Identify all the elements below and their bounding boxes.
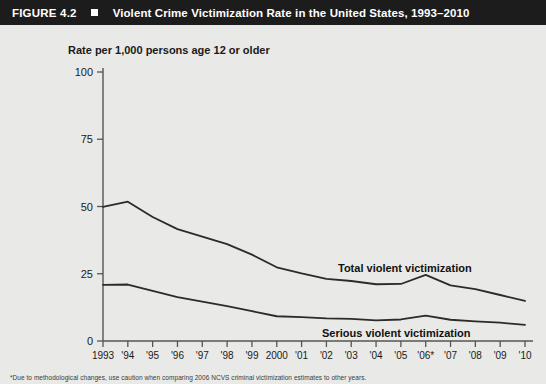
figure-footnote: *Due to methodological changes, use caut… [10, 374, 366, 381]
series-line-0 [103, 202, 525, 301]
x-axis-tick-label: '96 [171, 350, 184, 361]
x-axis-tick-label: '94 [121, 350, 134, 361]
y-axis-tick-label: 75 [63, 133, 93, 145]
x-axis-tick-label: '03 [345, 350, 358, 361]
x-axis-tick-label: '05 [394, 350, 407, 361]
x-axis-tick-label: '06* [417, 350, 434, 361]
y-axis-tick-label: 25 [63, 268, 93, 280]
chart-plot-area: 0255075100 1993'94'95'96'97'98'992000'01… [0, 0, 546, 384]
y-axis-tick-label: 0 [63, 335, 93, 347]
figure-page: FIGURE 4.2 Violent Crime Victimization R… [0, 0, 546, 384]
x-axis-tick-label: '04 [370, 350, 383, 361]
x-axis-tick-label: '97 [196, 350, 209, 361]
x-axis-tick-label: '02 [320, 350, 333, 361]
x-axis-tick-label: 2000 [266, 350, 288, 361]
x-axis-tick-label: '01 [295, 350, 308, 361]
x-axis-tick-label: '09 [494, 350, 507, 361]
series-label-1: Serious violent victimization [322, 327, 471, 339]
y-axis-tick-label: 50 [63, 201, 93, 213]
x-axis-tick-label: '98 [221, 350, 234, 361]
series-label-0: Total violent victimization [338, 262, 472, 274]
x-axis-tick-label: '08 [469, 350, 482, 361]
x-axis-tick-label: '10 [518, 350, 531, 361]
x-axis-tick-label: 1993 [92, 350, 114, 361]
x-axis-tick-label: '95 [146, 350, 159, 361]
y-axis-tick-label: 100 [63, 66, 93, 78]
x-axis-tick-label: '07 [444, 350, 457, 361]
x-axis-tick-label: '99 [245, 350, 258, 361]
series-line-1 [103, 285, 525, 325]
